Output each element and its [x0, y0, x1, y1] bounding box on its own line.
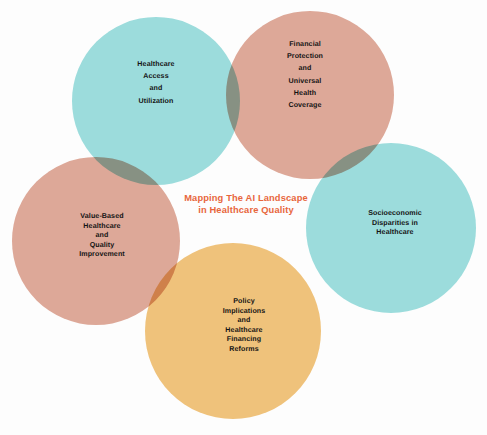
- venn-label-layer: Healthcare Access and Utilization Financ…: [0, 0, 487, 435]
- venn-label-value-based-healthcare: Value-Based Healthcare and Quality Impro…: [46, 212, 158, 260]
- venn-diagram: Healthcare Access and Utilization Financ…: [0, 0, 487, 435]
- venn-label-healthcare-access: Healthcare Access and Utilization: [106, 58, 206, 107]
- venn-label-policy-implications: Policy Implications and Healthcare Finan…: [188, 297, 300, 354]
- venn-label-socioeconomic-disparities: Socioeconomic Disparities in Healthcare: [340, 209, 450, 238]
- venn-label-financial-protection: Financial Protection and Universal Healt…: [255, 38, 355, 111]
- venn-center-title: Mapping The AI Landscape in Healthcare Q…: [168, 192, 324, 217]
